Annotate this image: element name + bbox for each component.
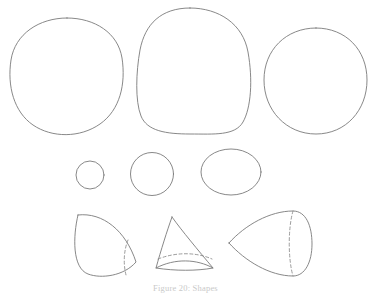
figure-caption: Figure 20: Shapes <box>0 283 371 293</box>
